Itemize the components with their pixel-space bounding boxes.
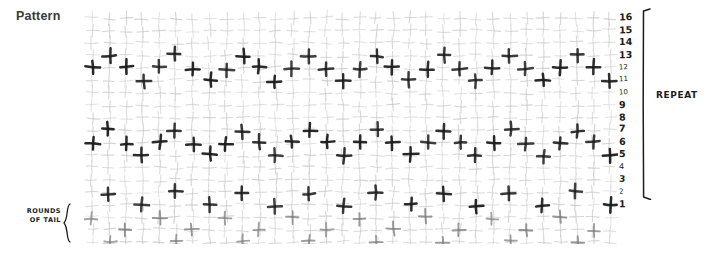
tail-row-numbers: 403938	[70, 200, 92, 248]
row-number: 4	[619, 162, 641, 171]
row-number-column: 16151413121110987654321	[619, 0, 643, 253]
row-number: 7	[619, 123, 641, 135]
stitch-chart-svg	[84, 8, 618, 244]
row-number: 15	[619, 23, 641, 35]
page-title: Pattern	[16, 9, 60, 23]
row-number: 2	[619, 187, 641, 196]
stitch-chart-grid	[84, 8, 618, 244]
tail-rounds-label-line1: ROUNDS	[17, 207, 61, 216]
pattern-chart-sheet: Pattern 16151413121110987654321 REPEAT R…	[0, 0, 715, 253]
row-number: 13	[619, 49, 641, 60]
row-number: 6	[619, 136, 641, 148]
background-stitch-layer	[84, 10, 618, 244]
tail-rounds-label: ROUNDS OF TAIL	[17, 207, 61, 225]
row-number: 9	[619, 99, 641, 110]
row-number: 1	[619, 198, 641, 209]
repeat-label: REPEAT	[656, 90, 698, 100]
tail-rounds-label-line2: OF TAIL	[17, 216, 61, 225]
row-number: 8	[619, 110, 642, 122]
row-number: 11	[619, 75, 641, 83]
repeat-bracket-icon	[641, 8, 653, 200]
row-number: 16	[619, 11, 641, 23]
pattern-stitch-layer	[85, 47, 617, 214]
row-number: 10	[619, 87, 641, 96]
row-number: 14	[619, 36, 641, 47]
row-number: 5	[619, 148, 641, 159]
row-number: 12	[619, 63, 641, 72]
row-number: 3	[619, 173, 641, 184]
